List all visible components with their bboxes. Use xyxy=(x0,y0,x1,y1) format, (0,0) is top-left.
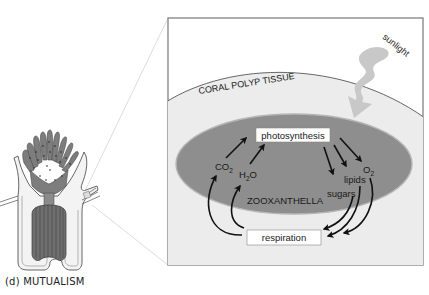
zooxanthella-label: ZOOXANTHELLA xyxy=(247,195,324,206)
mutualism-diagram: sunlight CORAL POLYP TISSUE photosynthes… xyxy=(0,0,429,295)
photosynthesis-label: photosynthesis xyxy=(261,130,325,141)
coral-polyp-illustration xyxy=(0,130,100,270)
lipids-label: lipids xyxy=(344,174,366,185)
inset-panel: sunlight CORAL POLYP TISSUE photosynthes… xyxy=(166,18,425,267)
figure-caption: (d) MUTUALISM xyxy=(5,276,85,287)
zoom-lines xyxy=(84,18,168,265)
sugars-label: sugars xyxy=(327,188,356,199)
respiration-label: respiration xyxy=(262,232,306,243)
